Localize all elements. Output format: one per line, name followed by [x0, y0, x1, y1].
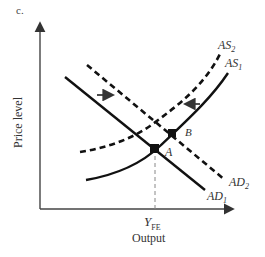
point-a-marker: [150, 144, 159, 153]
ad2-label-sub: 2: [245, 182, 249, 191]
as2-label-main: AS: [218, 38, 231, 52]
as1-label-sub: 1: [238, 63, 242, 72]
y-axis-label: Price level: [11, 83, 26, 163]
ad1-label-main: AD: [207, 189, 223, 203]
point-b-marker: [168, 129, 176, 137]
as1-label: AS1: [225, 56, 242, 72]
ad1-curve: [65, 77, 205, 190]
point-b-label: B: [185, 126, 192, 138]
ad2-label-main: AD: [229, 175, 245, 189]
as2-label: AS2: [218, 38, 235, 54]
x-tick-yfe: YFE: [144, 214, 161, 232]
as2-label-sub: 2: [231, 45, 235, 54]
x-axis-label: Output: [132, 231, 165, 246]
point-a-label: A: [165, 145, 172, 160]
ad1-label-sub: 1: [223, 196, 227, 205]
ad2-label: AD2: [229, 175, 249, 191]
x-tick-sub: FE: [151, 223, 160, 232]
as2-curve: [80, 52, 221, 152]
panel-label: c.: [16, 4, 24, 16]
as1-label-main: AS: [225, 56, 238, 70]
ad1-label: AD1: [207, 189, 227, 205]
